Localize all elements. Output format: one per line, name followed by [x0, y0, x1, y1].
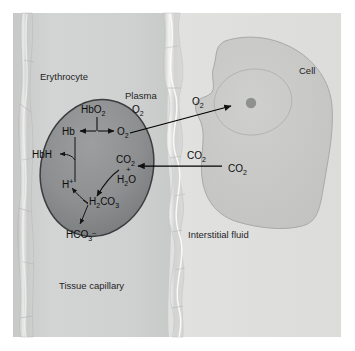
label-tissue-capillary: Tissue capillary	[59, 280, 124, 291]
species-plus-sign: +	[126, 165, 131, 174]
species-bicarbonate: HCO3–	[66, 229, 96, 242]
cell-nucleolus	[246, 98, 256, 108]
species-hbh: HbH	[32, 149, 52, 160]
diagram-canvas: Erythrocyte Plasma Tissue capillary Inte…	[0, 0, 355, 351]
label-cell: Cell	[299, 65, 315, 76]
illustration-plate: Erythrocyte Plasma Tissue capillary Inte…	[13, 13, 341, 337]
label-erythrocyte: Erythrocyte	[40, 71, 88, 82]
species-h2co3: H2CO3	[89, 196, 119, 209]
label-plasma: Plasma	[125, 90, 157, 101]
label-interstitial-fluid: Interstitial fluid	[188, 229, 249, 240]
gas-exchange-diagram: Erythrocyte Plasma Tissue capillary Inte…	[0, 0, 355, 351]
species-hb: Hb	[62, 126, 75, 137]
